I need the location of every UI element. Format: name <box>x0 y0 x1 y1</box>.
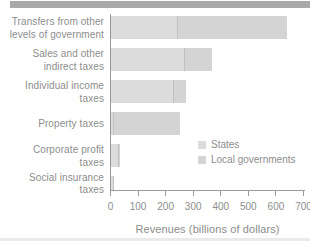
bar-segment-states <box>111 48 184 71</box>
bar-row <box>111 112 181 135</box>
category-label: Property taxes <box>0 118 104 131</box>
legend-item-states: States <box>198 137 296 152</box>
x-axis-tick-label: 600 <box>261 201 291 212</box>
x-axis-tick <box>110 191 111 196</box>
category-label: Social insurancetaxes <box>0 172 104 197</box>
x-axis-tick <box>303 191 304 196</box>
x-axis-tick-label: 500 <box>233 201 263 212</box>
legend-item-local-governments: Local governments <box>198 152 296 167</box>
x-axis-tick <box>248 191 249 196</box>
bar-segment-local-governments <box>184 48 213 71</box>
bar-row <box>111 16 287 39</box>
bar-segment-states <box>111 144 118 167</box>
category-label: Sales and otherindirect taxes <box>0 48 104 73</box>
x-axis-tick-label: 400 <box>206 201 236 212</box>
x-axis-tick <box>220 191 221 196</box>
bar-segment-states <box>111 80 173 103</box>
x-axis-tick <box>275 191 276 196</box>
bar-row <box>111 144 121 167</box>
x-axis-tick <box>165 191 166 196</box>
bar-segment-local-governments <box>113 112 180 135</box>
category-label: Transfers from otherlevels of government <box>0 16 104 41</box>
legend-swatch-states <box>198 141 206 149</box>
bar-segment-states <box>111 16 177 39</box>
x-axis-tick-label: 0 <box>96 201 126 212</box>
bar-segment-local-governments <box>113 176 115 190</box>
bar-row <box>111 176 115 190</box>
legend: States Local governments <box>198 137 296 167</box>
bar-row <box>111 80 186 103</box>
figure-canvas: Transfers from otherlevels of government… <box>0 0 310 241</box>
bar-segment-local-governments <box>177 16 287 39</box>
x-axis-tick <box>138 191 139 196</box>
x-axis-title: Revenues (billions of dollars) <box>110 223 305 235</box>
legend-label-local-governments: Local governments <box>211 154 296 165</box>
x-axis-tick-label: 100 <box>123 201 153 212</box>
bar-segment-local-governments <box>118 144 120 167</box>
category-label: Corporate profittaxes <box>0 144 104 169</box>
bar-chart: Transfers from otherlevels of government… <box>0 0 310 241</box>
legend-label-states: States <box>211 139 239 150</box>
category-label: Individual incometaxes <box>0 80 104 105</box>
legend-swatch-local-governments <box>198 156 206 164</box>
x-axis-tick <box>193 191 194 196</box>
x-axis-tick-label: 200 <box>151 201 181 212</box>
bar-segment-local-governments <box>173 80 186 103</box>
bar-row <box>111 48 213 71</box>
x-axis-tick-label: 700 <box>289 201 311 212</box>
x-axis-tick-label: 300 <box>178 201 208 212</box>
